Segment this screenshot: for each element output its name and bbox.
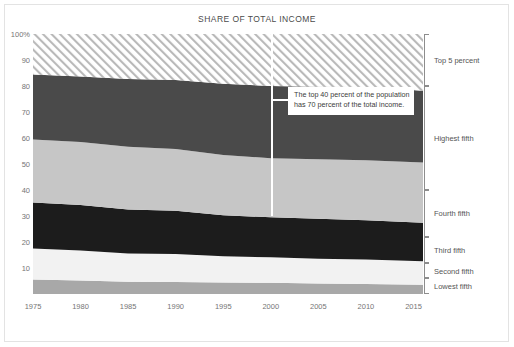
chart-figure: SHARE OF TOTAL INCOME 100%90807060504030… (0, 0, 514, 347)
callout-leader-line (271, 99, 288, 101)
legend-entry: Second fifth (424, 263, 510, 279)
chart-title: SHARE OF TOTAL INCOME (0, 14, 514, 24)
legend-entry: Highest fifth (424, 86, 510, 190)
legend-label: Third fifth (434, 245, 465, 254)
legend-label: Fourth fifth (434, 209, 470, 218)
top-40-callout: The top 40 percent of the populationhas … (288, 87, 414, 115)
legend-label: Lowest fifth (434, 282, 472, 291)
legend-bracket (424, 34, 429, 86)
legend-entry: Lowest fifth (424, 278, 510, 294)
legend-entry: Fourth fifth (424, 190, 510, 237)
legend-label: Top 5 percent (434, 56, 479, 65)
legend-label: Second fifth (434, 266, 474, 275)
area-bands (33, 34, 423, 294)
legend-label: Highest fifth (434, 134, 474, 143)
callout-line-1: The top 40 percent of the population (294, 90, 409, 100)
legend-bracket (424, 237, 429, 263)
legend-bracket (424, 263, 429, 279)
legend-bracket (424, 278, 429, 294)
chart-legend: Top 5 percentHighest fifthFourth fifthTh… (424, 34, 510, 294)
legend-bracket (424, 86, 429, 190)
year-marker-line (271, 34, 273, 216)
legend-entry: Third fifth (424, 237, 510, 263)
stacked-area-plot (33, 34, 423, 294)
legend-entry: Top 5 percent (424, 34, 510, 86)
legend-bracket (424, 190, 429, 237)
callout-line-2: has 70 percent of the total income. (294, 100, 409, 110)
